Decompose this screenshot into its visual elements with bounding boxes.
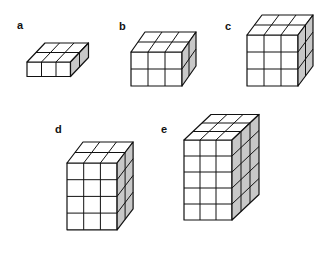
cube-stacks-figure bbox=[0, 0, 323, 266]
front-face bbox=[27, 62, 71, 77]
front-face bbox=[247, 35, 298, 86]
cube-stack-e bbox=[184, 115, 259, 221]
cube-stack-c bbox=[247, 15, 313, 86]
cube-stack-a bbox=[27, 43, 89, 77]
front-face bbox=[184, 140, 232, 220]
cube-stack-d bbox=[67, 142, 133, 230]
cube-stack-b bbox=[131, 32, 196, 86]
